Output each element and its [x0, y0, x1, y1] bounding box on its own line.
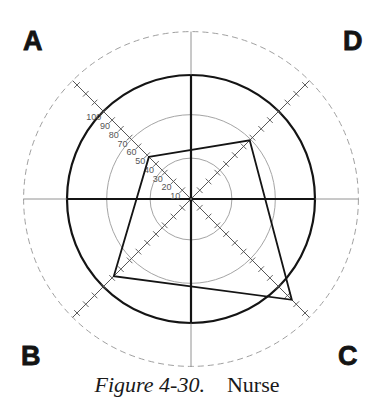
tick-label-30: 30: [153, 174, 163, 184]
tick-label-60: 60: [126, 147, 136, 157]
tick-label-20: 20: [161, 182, 171, 192]
tick-label-50: 50: [135, 156, 145, 166]
tick-label-70: 70: [118, 139, 128, 149]
figure-caption: Figure 4-30. Nurse: [0, 372, 374, 398]
tick-label-100: 100: [86, 112, 101, 122]
tick-label-80: 80: [109, 130, 119, 140]
tick-label-10: 10: [170, 191, 180, 201]
figure-number: Figure 4-30.: [95, 372, 205, 397]
radar-chart: 102030405060708090100: [0, 0, 374, 402]
figure-title: Nurse: [227, 372, 280, 397]
tick-label-90: 90: [100, 121, 110, 131]
axis-tick-labels: 102030405060708090100: [86, 112, 180, 201]
